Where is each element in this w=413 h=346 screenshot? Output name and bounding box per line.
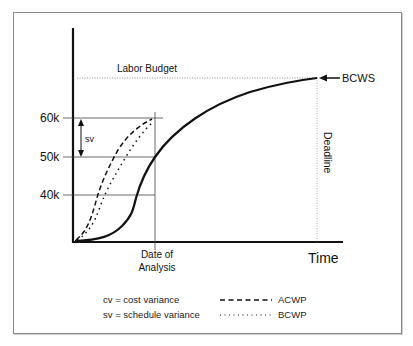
legend-sv: sv = schedule variance xyxy=(103,309,200,320)
x-axis-label: Time xyxy=(308,250,339,266)
labor-budget-label: Labor Budget xyxy=(117,63,177,74)
y-tick-60k: 60k xyxy=(40,111,59,125)
y-tick-50k: 50k xyxy=(40,150,59,164)
legend-bcwp: BCWP xyxy=(278,309,307,320)
legend-cv: cv = cost variance xyxy=(103,294,179,305)
sv-arrow-up-icon xyxy=(78,119,84,126)
sv-label: sv xyxy=(85,134,94,144)
chart-canvas xyxy=(0,0,413,346)
bcws-label: BCWS xyxy=(342,72,375,84)
date-of-analysis-label-line2: Analysis xyxy=(133,262,181,273)
y-tick-40k: 40k xyxy=(40,188,59,202)
sv-arrow-down-icon xyxy=(78,150,84,157)
bcws-curve xyxy=(75,78,317,241)
bcws-arrow-head-icon xyxy=(319,75,327,82)
deadline-label: Deadline xyxy=(322,132,334,173)
legend-acwp: ACWP xyxy=(278,294,307,305)
date-of-analysis-label-line1: Date of xyxy=(137,249,177,260)
